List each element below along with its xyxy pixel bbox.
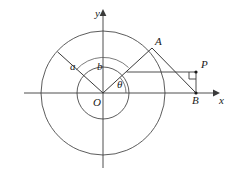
y-axis-label: y bbox=[95, 8, 100, 19]
segment-AB bbox=[152, 48, 196, 93]
length-label-a: a bbox=[70, 61, 76, 72]
length-label-b: b bbox=[97, 61, 103, 72]
origin-label: O bbox=[93, 97, 101, 108]
x-axis-label: x bbox=[219, 95, 224, 106]
point-dot-P bbox=[194, 70, 197, 73]
ray-OA bbox=[103, 48, 152, 93]
angle-label-theta: θ bbox=[117, 79, 122, 90]
point-label-B: B bbox=[192, 95, 199, 106]
point-label-A: A bbox=[155, 36, 162, 47]
figure-canvas bbox=[0, 0, 229, 181]
geometry-figure: y x O A P B a b θ bbox=[0, 0, 229, 181]
y-axis-arrowhead bbox=[100, 9, 107, 16]
point-label-P: P bbox=[201, 59, 208, 70]
